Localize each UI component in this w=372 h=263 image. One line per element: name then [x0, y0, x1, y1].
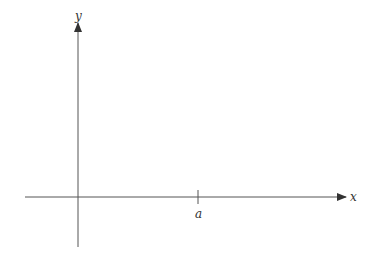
coordinate-axes-diagram: y x a: [0, 0, 372, 263]
tick-label-a: a: [195, 207, 202, 221]
y-axis-label: y: [74, 9, 82, 23]
x-axis-label: x: [350, 190, 357, 204]
